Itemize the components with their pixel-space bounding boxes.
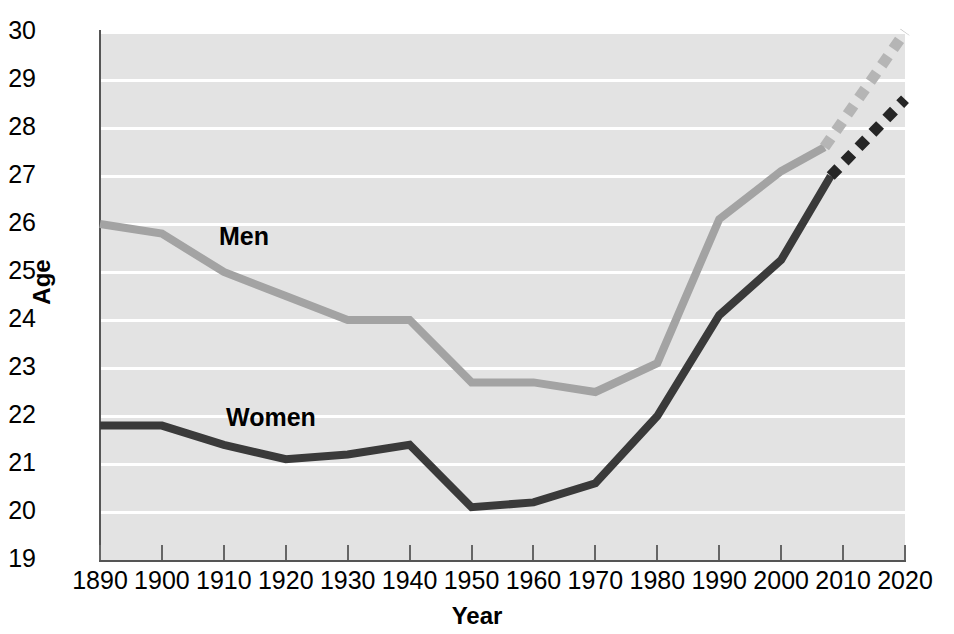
y-tick-label: 27	[0, 160, 36, 189]
x-tick-mark	[532, 545, 534, 560]
x-tick-mark	[409, 545, 411, 560]
y-tick-label: 22	[0, 400, 36, 429]
gridline	[100, 511, 905, 514]
x-tick-mark	[223, 545, 225, 560]
gridline	[100, 415, 905, 418]
y-tick-label: 19	[0, 544, 36, 573]
gridline	[100, 367, 905, 370]
x-tick-mark	[99, 545, 101, 560]
plot-area	[100, 32, 905, 560]
x-tick-mark	[161, 545, 163, 560]
gridline	[100, 319, 905, 322]
x-tick-label: 2020	[860, 566, 950, 595]
gridline	[100, 271, 905, 274]
x-tick-mark	[780, 545, 782, 560]
y-tick-label: 29	[0, 64, 36, 93]
x-tick-mark	[347, 545, 349, 560]
series-label-men: Men	[219, 222, 269, 251]
gridline	[100, 175, 905, 178]
x-axis-line	[99, 560, 906, 562]
y-tick-label: 30	[0, 16, 36, 45]
y-axis-line	[99, 30, 101, 562]
x-tick-mark	[594, 545, 596, 560]
y-axis-title: Age	[28, 222, 56, 342]
gridline	[100, 31, 905, 34]
x-tick-mark	[471, 545, 473, 560]
series-label-women: Women	[226, 403, 316, 432]
x-tick-mark	[904, 545, 906, 560]
x-tick-mark	[718, 545, 720, 560]
y-tick-label: 20	[0, 496, 36, 525]
x-tick-mark	[842, 545, 844, 560]
gridline	[100, 127, 905, 130]
x-tick-mark	[656, 545, 658, 560]
gridline	[100, 463, 905, 466]
x-tick-mark	[285, 545, 287, 560]
gridline	[100, 79, 905, 82]
x-axis-title: Year	[0, 602, 954, 630]
y-tick-label: 21	[0, 448, 36, 477]
y-tick-label: 28	[0, 112, 36, 141]
line-chart: 192021222324252627282930 189019001910192…	[0, 0, 954, 634]
y-tick-label: 23	[0, 352, 36, 381]
